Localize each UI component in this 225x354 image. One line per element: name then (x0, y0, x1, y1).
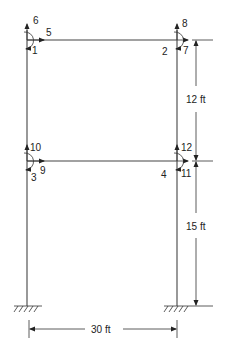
joint-top-left: 6 5 1 (24, 15, 52, 56)
label-11: 11 (181, 168, 192, 179)
label-9: 9 (40, 165, 46, 176)
lower-story-height: 15 ft (186, 221, 206, 232)
left-fixed-support-icon (14, 306, 42, 312)
label-5: 5 (46, 27, 52, 38)
label-2: 2 (162, 46, 168, 57)
label-6: 6 (33, 15, 39, 26)
label-10: 10 (30, 142, 42, 153)
label-8: 8 (182, 18, 188, 29)
frame-diagram: 6 5 1 8 7 2 10 9 3 12 11 4 12 ft (0, 0, 225, 354)
label-3: 3 (31, 172, 37, 183)
label-7: 7 (183, 45, 189, 56)
label-4: 4 (161, 169, 167, 180)
right-fixed-support-icon (164, 306, 192, 312)
span-length: 30 ft (91, 324, 111, 335)
label-1: 1 (32, 45, 38, 56)
label-12: 12 (181, 142, 193, 153)
span-dimension: 30 ft (29, 320, 177, 338)
joint-top-right: 8 7 2 (162, 18, 189, 57)
upper-story-height: 12 ft (186, 94, 206, 105)
